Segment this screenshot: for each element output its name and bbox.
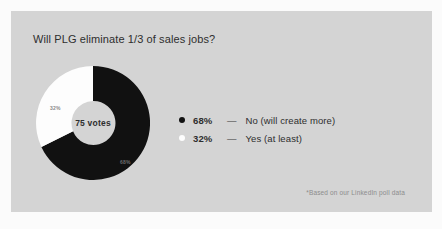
donut-slice-yes [36,66,93,147]
legend-percent-no: 68% [193,115,227,126]
legend-label-no: No (will create more) [246,115,336,126]
legend-item-no: 68% — No (will create more) [179,111,335,129]
legend-label-yes: Yes (at least) [246,133,303,144]
legend-percent-yes: 32% [193,133,227,144]
legend-dash-no: — [227,115,237,126]
page-title: Will PLG eliminate 1/3 of sales jobs? [33,33,215,45]
chart-footnote: *Based on our LinkedIn poll data [306,189,405,196]
donut-chart: 75 votes 32% 68% [36,66,150,180]
legend-dot-no-icon [179,117,185,123]
legend-dot-yes-icon [179,135,185,141]
legend-dash-yes: — [227,133,237,144]
poll-result-card: Will PLG eliminate 1/3 of sales jobs? 75… [11,11,432,212]
chart-legend: 68% — No (will create more) 32% — Yes (a… [179,111,335,147]
legend-item-yes: 32% — Yes (at least) [179,129,335,147]
screenshot-root: Will PLG eliminate 1/3 of sales jobs? 75… [0,0,442,229]
donut-chart-svg [36,66,150,180]
